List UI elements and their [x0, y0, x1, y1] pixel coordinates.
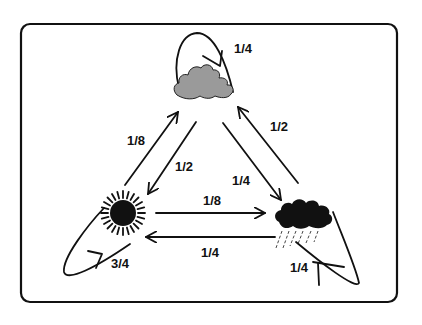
label-cloudy-rainy: 1/4 — [232, 173, 251, 188]
label-cloudy-cloudy: 1/4 — [234, 41, 253, 56]
label-rainy-cloudy: 1/2 — [270, 119, 288, 134]
label-rainy-sunny: 1/4 — [201, 245, 220, 260]
markov-weather-diagram: 1/4 1/8 1/2 1/2 1/4 1/8 1/4 3/4 1/4 — [0, 0, 422, 325]
label-sunny-sunny: 3/4 — [111, 256, 130, 271]
sun-icon — [101, 191, 145, 235]
label-sunny-rainy: 1/8 — [203, 193, 221, 208]
label-cloudy-sunny: 1/2 — [175, 159, 193, 174]
label-sunny-cloudy: 1/8 — [127, 133, 145, 148]
label-rainy-rainy: 1/4 — [290, 260, 309, 275]
